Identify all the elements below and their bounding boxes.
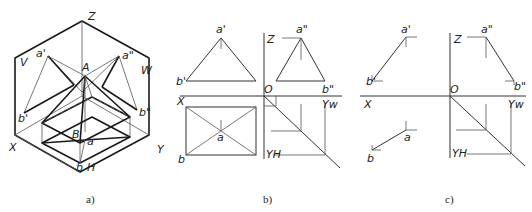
label-yh: YH	[452, 147, 467, 160]
label-a: a	[87, 135, 94, 148]
label-a-prime: a'	[36, 47, 46, 60]
label-a-double: a"	[296, 23, 308, 36]
label-yw: Yw	[322, 98, 338, 111]
label-a-double: a"	[481, 23, 493, 36]
label-x-b: X	[176, 95, 185, 108]
v-projection-base	[24, 85, 74, 113]
label-b-double: b"	[514, 80, 526, 93]
side-line-ab	[486, 37, 514, 81]
label-y: Y	[157, 143, 165, 156]
caption-b: b)	[263, 193, 273, 206]
label-x: X	[363, 98, 372, 111]
label-a: a	[404, 131, 411, 144]
label-a-double: a"	[122, 49, 134, 62]
label-x: X	[8, 141, 17, 154]
label-b-prime: b'	[176, 75, 186, 88]
label-b-double: b"	[139, 106, 151, 119]
projection-diagram: Z V a' A a" W b' b" B a X Y b H a)	[0, 0, 532, 212]
label-A: A	[81, 61, 90, 74]
label-o: O	[264, 83, 273, 96]
side-view-triangle	[276, 38, 325, 81]
front-line-ab	[372, 37, 406, 81]
b-double-marker	[505, 81, 514, 85]
construction-mid	[456, 104, 486, 130]
v-projection-thick-edge	[48, 56, 74, 85]
pyramid-edge-2	[80, 76, 85, 143]
label-z: Z	[266, 33, 275, 46]
label-a-prime: a'	[401, 23, 411, 36]
caption-c: c)	[445, 193, 454, 206]
label-B: B	[72, 128, 80, 141]
label-o: O	[450, 83, 459, 96]
a-marker	[406, 121, 417, 130]
label-yh: YH	[266, 148, 281, 161]
label-b-prime: b'	[18, 112, 28, 125]
figure-a-axonometric: Z V a' A a" W b' b" B a X Y b H a)	[8, 10, 165, 206]
label-b: b	[367, 152, 374, 165]
label-yw: Yw	[508, 98, 524, 111]
projector-a-prime	[48, 56, 85, 76]
label-h: H	[87, 161, 95, 174]
label-b-b: b	[178, 153, 185, 166]
label-v: V	[20, 56, 29, 69]
figure-b-three-views: a' b' Z a" b" O Yw a YH b)	[176, 23, 342, 206]
figure-c-line-projection: a' b' Z a" b" O X Yw a b YH c)	[360, 23, 526, 206]
top-line-ab	[372, 130, 406, 150]
label-w: W	[141, 64, 153, 77]
label-a-prime: a'	[216, 23, 226, 36]
label-b-double: b"	[322, 83, 334, 96]
label-a: a	[217, 131, 224, 144]
caption-a: a)	[86, 193, 95, 206]
a-prime-marker	[406, 37, 417, 47]
label-z: Z	[87, 10, 96, 23]
label-b: b	[76, 161, 83, 174]
w-projection-triangle	[82, 56, 137, 110]
label-b-prime: b'	[366, 75, 376, 88]
label-z: Z	[453, 33, 462, 46]
